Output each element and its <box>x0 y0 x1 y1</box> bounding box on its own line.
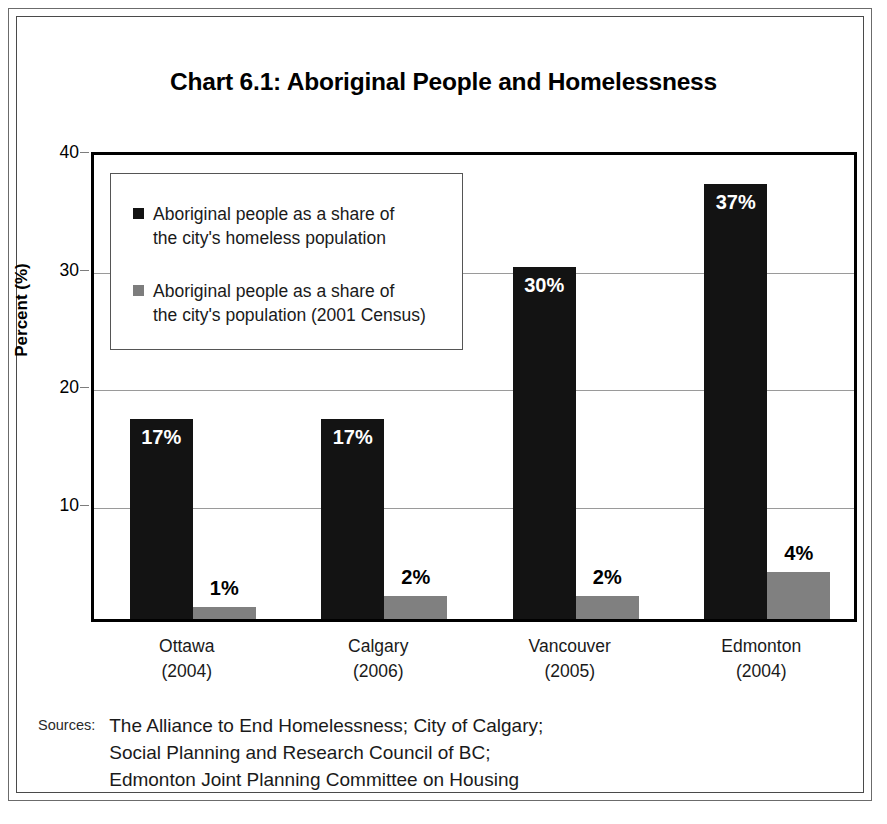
x-axis-group-label: Edmonton(2004) <box>666 634 858 684</box>
sources-text: The Alliance to End Homelessness; City o… <box>109 712 543 793</box>
x-axis-year-label: (2005) <box>474 659 666 684</box>
bar-value-label: 17% <box>130 426 193 449</box>
legend-label: Aboriginal people as a share of the city… <box>153 202 394 250</box>
y-axis-tick-mark <box>80 387 89 388</box>
x-axis-group-label: Calgary(2006) <box>283 634 475 684</box>
bar-value-label: 1% <box>193 577 256 600</box>
y-axis-tick-mark <box>80 270 89 271</box>
bar-ottawa-series1: 1% <box>193 607 256 619</box>
y-axis-title: Percent (%) <box>12 210 32 410</box>
x-axis-group-label: Vancouver(2005) <box>474 634 666 684</box>
bar-edmonton-series1: 4% <box>767 572 830 619</box>
chart-legend: Aboriginal people as a share of the city… <box>110 173 463 350</box>
x-axis-year-label: (2004) <box>91 659 283 684</box>
x-axis-city-label: Ottawa <box>91 634 283 659</box>
x-axis-city-label: Calgary <box>283 634 475 659</box>
x-axis-year-label: (2006) <box>283 659 475 684</box>
bar-calgary-series0: 17% <box>321 419 384 619</box>
sources-label: Sources: <box>38 712 109 739</box>
bar-vancouver-series0: 30% <box>513 267 576 620</box>
bar-ottawa-series0: 17% <box>130 419 193 619</box>
chart-page: Chart 6.1: Aboriginal People and Homeles… <box>0 0 887 824</box>
chart-title: Chart 6.1: Aboriginal People and Homeles… <box>0 68 887 96</box>
bar-value-label: 37% <box>704 191 767 214</box>
bar-calgary-series1: 2% <box>384 596 447 620</box>
x-axis-labels: Ottawa(2004)Calgary(2006)Vancouver(2005)… <box>91 634 857 694</box>
legend-item-homeless-share: Aboriginal people as a share of the city… <box>133 202 394 250</box>
x-axis-group-label: Ottawa(2004) <box>91 634 283 684</box>
legend-swatch-gray-icon <box>133 285 144 296</box>
bar-value-label: 2% <box>576 566 639 589</box>
bar-edmonton-series0: 37% <box>704 184 767 619</box>
bar-value-label: 17% <box>321 426 384 449</box>
y-axis-tick-mark <box>80 152 89 153</box>
bar-value-label: 30% <box>513 274 576 297</box>
bar-value-label: 4% <box>767 542 830 565</box>
legend-swatch-black-icon <box>133 208 144 219</box>
legend-item-population-share: Aboriginal people as a share of the city… <box>133 279 426 327</box>
bar-value-label: 2% <box>384 566 447 589</box>
bar-vancouver-series1: 2% <box>576 596 639 620</box>
legend-label: Aboriginal people as a share of the city… <box>153 279 426 327</box>
x-axis-year-label: (2004) <box>666 659 858 684</box>
y-axis-tick-mark <box>80 505 89 506</box>
x-axis-city-label: Vancouver <box>474 634 666 659</box>
sources-block: Sources: The Alliance to End Homelessnes… <box>38 712 543 793</box>
x-axis-city-label: Edmonton <box>666 634 858 659</box>
